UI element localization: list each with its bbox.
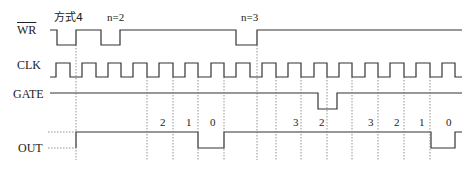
clk-label: CLK bbox=[17, 59, 41, 71]
gate-label: GATE bbox=[13, 88, 44, 100]
count-value: 2 bbox=[394, 117, 400, 128]
timing-diagram bbox=[0, 0, 476, 171]
count-value: 0 bbox=[210, 117, 216, 128]
clk-waveform bbox=[50, 63, 462, 77]
count-value: 2 bbox=[319, 117, 325, 128]
gate-waveform bbox=[50, 93, 462, 109]
out-label: OUT bbox=[18, 142, 43, 154]
count-value: 3 bbox=[368, 117, 374, 128]
mode-annotation: 方式4 bbox=[54, 12, 83, 23]
wr-waveform bbox=[50, 30, 462, 45]
wr-label: WR bbox=[17, 24, 36, 36]
count-value: 0 bbox=[446, 117, 452, 128]
count-value: 3 bbox=[293, 117, 299, 128]
count-value: 1 bbox=[186, 117, 192, 128]
count-value: 2 bbox=[160, 117, 166, 128]
n2-annotation: n=2 bbox=[107, 12, 124, 23]
count-value: 1 bbox=[419, 117, 425, 128]
n3-annotation: n=3 bbox=[241, 12, 258, 23]
